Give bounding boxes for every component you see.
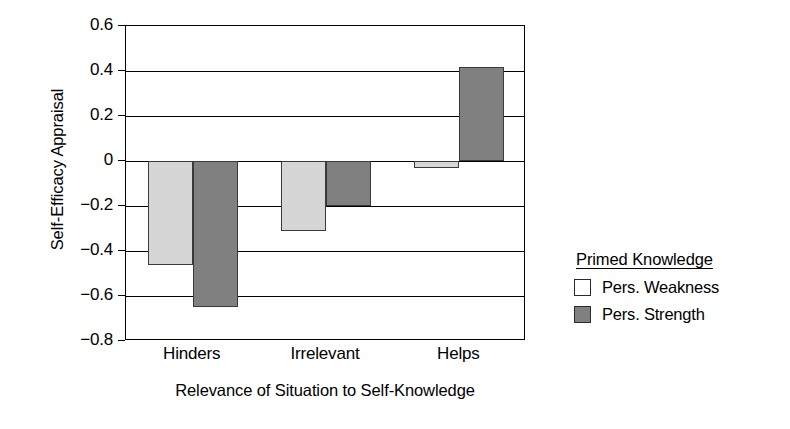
y-tick-label: 0.2 [57,106,113,123]
y-tick-label: −0.6 [57,286,113,303]
legend-item-label: Pers. Strength [602,305,705,324]
y-tick-mark [118,70,125,71]
legend-swatch-icon [574,279,591,296]
y-axis-ticks [125,25,525,340]
y-tick-label: −0.4 [57,241,113,258]
y-tick-label: 0.4 [57,61,113,78]
x-tick-label-hinders: Hinders [122,344,262,364]
y-tick-label: −0.8 [57,331,113,348]
y-tick-mark [118,340,125,341]
y-axis-tick-labels: 0.60.40.20−0.2−0.4−0.6−0.8 [57,0,113,429]
y-tick-mark [118,205,125,206]
x-axis-title: Relevance of Situation to Self-Knowledge [95,381,555,400]
x-tick-label-helps: Helps [388,344,528,364]
y-tick-mark [118,250,125,251]
y-tick-mark [118,295,125,296]
bar-chart-figure: Self-Efficacy Appraisal 0.60.40.20−0.2−0… [0,0,790,429]
x-tick-label-irrelevant: Irrelevant [255,344,395,364]
x-axis-tick-labels: HindersIrrelevantHelps [125,344,525,368]
legend: Primed Knowledge Pers. WeaknessPers. Str… [574,249,784,332]
legend-item-label: Pers. Weakness [602,278,719,297]
legend-item-weakness: Pers. Weakness [574,278,784,297]
y-tick-label: 0 [57,151,113,168]
y-tick-label: 0.6 [57,16,113,33]
y-tick-mark [118,115,125,116]
legend-entries: Pers. WeaknessPers. Strength [574,278,784,324]
legend-title: Primed Knowledge [574,249,784,269]
legend-item-strength: Pers. Strength [574,305,784,324]
y-tick-label: −0.2 [57,196,113,213]
legend-swatch-icon [574,306,591,323]
y-tick-mark [118,160,125,161]
y-tick-mark [118,25,125,26]
